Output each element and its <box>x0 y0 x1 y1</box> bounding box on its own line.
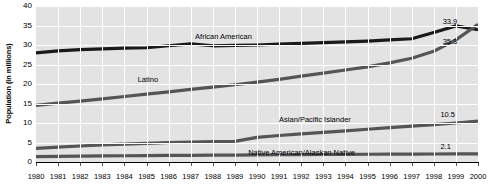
x-tick-label: 1992 <box>293 173 310 181</box>
series-label: Latino <box>138 76 158 84</box>
x-tick-label: 1989 <box>227 173 244 181</box>
x-tick-label: 1993 <box>315 173 332 181</box>
x-tick-label: 1997 <box>403 173 420 181</box>
x-tick-label: 1982 <box>72 173 89 181</box>
x-tick-mark <box>147 163 148 166</box>
gridline-vertical <box>301 6 302 162</box>
gridline-vertical <box>58 6 59 162</box>
x-tick-mark <box>80 163 81 166</box>
x-tick-label: 1994 <box>337 173 354 181</box>
gridline-vertical <box>368 6 369 162</box>
x-tick-label: 1996 <box>381 173 398 181</box>
x-tick-mark <box>323 163 324 166</box>
gridline-vertical <box>279 6 280 162</box>
x-tick-mark <box>301 163 302 166</box>
x-tick-mark <box>345 163 346 166</box>
x-tick-mark <box>235 163 236 166</box>
x-tick-label: 1984 <box>116 173 133 181</box>
x-tick-mark <box>124 163 125 166</box>
x-tick-mark <box>213 163 214 166</box>
gridline-vertical <box>456 6 457 162</box>
gridline-vertical <box>478 6 479 162</box>
x-tick-mark <box>279 163 280 166</box>
population-line-chart: Population (in millions) 051015202530354… <box>0 0 497 192</box>
x-tick-mark <box>434 163 435 166</box>
x-tick-label: 1995 <box>359 173 376 181</box>
x-tick-label: 1986 <box>160 173 177 181</box>
value-label: 35.3 <box>443 38 458 46</box>
gridline-vertical <box>323 6 324 162</box>
gridline-vertical <box>80 6 81 162</box>
x-tick-label: 1987 <box>182 173 199 181</box>
x-tick-mark <box>368 163 369 166</box>
y-tick-label: 35 <box>16 22 32 30</box>
gridline-vertical <box>257 6 258 162</box>
gridline-vertical <box>147 6 148 162</box>
x-tick-mark <box>257 163 258 166</box>
y-tick-label: 30 <box>16 41 32 49</box>
x-tick-label: 1998 <box>425 173 442 181</box>
gridline-vertical <box>191 6 192 162</box>
y-tick-label: 5 <box>16 139 32 147</box>
gridline-vertical <box>390 6 391 162</box>
x-tick-label: 1985 <box>138 173 155 181</box>
gridline-vertical <box>169 6 170 162</box>
x-tick-label: 1999 <box>448 173 465 181</box>
y-tick-label: 25 <box>16 61 32 69</box>
value-label: 33.9 <box>443 18 458 26</box>
gridline-vertical <box>124 6 125 162</box>
gridline-vertical <box>213 6 214 162</box>
gridline-vertical <box>102 6 103 162</box>
y-tick-label: 0 <box>16 158 32 166</box>
x-tick-label: 2000 <box>470 173 487 181</box>
y-tick-label: 20 <box>16 80 32 88</box>
y-tick-label: 15 <box>16 100 32 108</box>
gridline-vertical <box>345 6 346 162</box>
y-axis-tick-labels: 0510152025303540 <box>12 0 32 166</box>
x-tick-label: 1988 <box>204 173 221 181</box>
x-tick-mark <box>36 163 37 166</box>
x-tick-label: 1983 <box>94 173 111 181</box>
gridline-vertical <box>412 6 413 162</box>
gridline-vertical <box>434 6 435 162</box>
x-tick-label: 1991 <box>271 173 288 181</box>
x-tick-label: 1981 <box>50 173 67 181</box>
value-label: 2.1 <box>440 143 450 151</box>
value-label: 10.5 <box>440 111 455 119</box>
x-tick-mark <box>58 163 59 166</box>
x-tick-mark <box>102 163 103 166</box>
series-label: Native American/Alaskan Native <box>248 149 355 157</box>
y-tick-label: 10 <box>16 119 32 127</box>
y-tick-label: 40 <box>16 2 32 10</box>
x-tick-mark <box>478 163 479 166</box>
x-tick-label: 1980 <box>28 173 45 181</box>
x-tick-label: 1990 <box>249 173 266 181</box>
x-tick-mark <box>412 163 413 166</box>
x-tick-mark <box>169 163 170 166</box>
series-label: African American <box>195 33 252 41</box>
x-tick-mark <box>456 163 457 166</box>
x-tick-mark <box>390 163 391 166</box>
series-label: Asian/Pacific Islander <box>279 116 351 124</box>
x-tick-mark <box>191 163 192 166</box>
plot-area <box>36 6 479 162</box>
gridline-vertical <box>235 6 236 162</box>
